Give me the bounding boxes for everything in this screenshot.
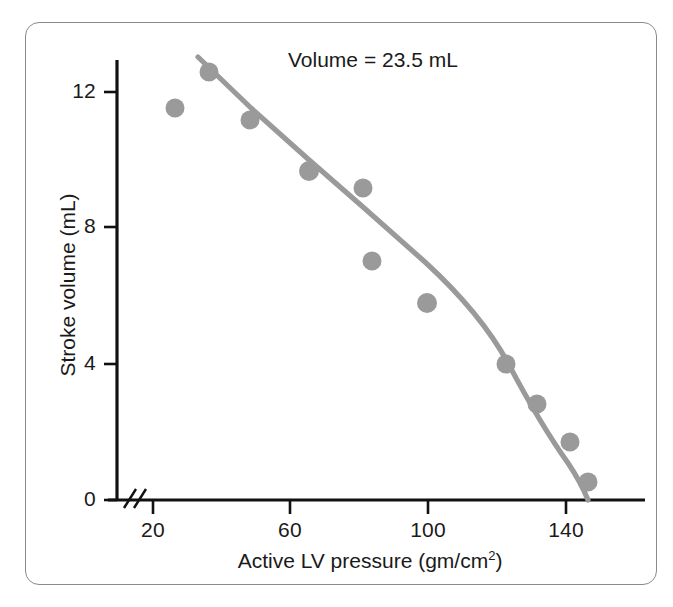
chart-annotation: Volume = 23.5 mL (288, 48, 458, 72)
data-point (579, 473, 598, 492)
y-axis-title: Stroke volume (mL) (56, 155, 80, 415)
data-point (363, 252, 382, 271)
data-point (241, 111, 260, 130)
y-tick-label-12: 12 (44, 79, 96, 103)
data-point (354, 179, 373, 198)
x-axis-title-text: Active LV pressure (gm/cm (238, 549, 489, 572)
x-tick-label-100: 100 (398, 518, 458, 542)
data-point-group (166, 63, 598, 492)
y-axis-ticks (104, 92, 117, 500)
chart-plot-area (0, 0, 673, 607)
data-point (417, 293, 437, 313)
x-tick-label-60: 60 (260, 518, 320, 542)
data-point (166, 99, 185, 118)
data-point (299, 161, 319, 181)
figure-container: 12 8 4 0 20 60 100 140 Active LV pressur… (0, 0, 673, 607)
data-point (528, 395, 547, 414)
x-axis-title-tail: ) (495, 549, 502, 572)
y-tick-label-0: 0 (44, 487, 96, 511)
data-point (561, 433, 580, 452)
x-axis-ticks (153, 500, 566, 514)
x-axis-title: Active LV pressure (gm/cm2) (120, 548, 620, 573)
x-tick-label-20: 20 (123, 518, 183, 542)
x-tick-label-140: 140 (536, 518, 596, 542)
data-point (497, 355, 516, 374)
data-point (200, 63, 219, 82)
